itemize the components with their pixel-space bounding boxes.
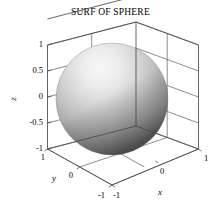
figure-canvas: SURF OF SPHERE — [0, 0, 221, 218]
y-tick-label-2: 0 — [61, 170, 73, 180]
sphere-surface — [56, 43, 168, 155]
y-axis-label: y — [52, 173, 56, 183]
z-tick-label-3: 0 — [29, 91, 43, 101]
x-axis-label: x — [158, 187, 162, 197]
z-axis-label: z — [8, 97, 18, 101]
z-tick-label-4: -0.5 — [18, 117, 43, 127]
y-tick-label-1: 1 — [33, 152, 45, 162]
x-tick-label-2: 0 — [160, 166, 172, 176]
z-tick-label-2: 0.5 — [22, 65, 43, 75]
z-tick-label-1: 1 — [29, 39, 43, 49]
x-tick-label-3: 1 — [204, 153, 216, 163]
y-tick-label-3: -1 — [88, 190, 105, 200]
x-tick-label-1: -1 — [113, 190, 130, 200]
axes-3d-plot — [0, 0, 221, 218]
